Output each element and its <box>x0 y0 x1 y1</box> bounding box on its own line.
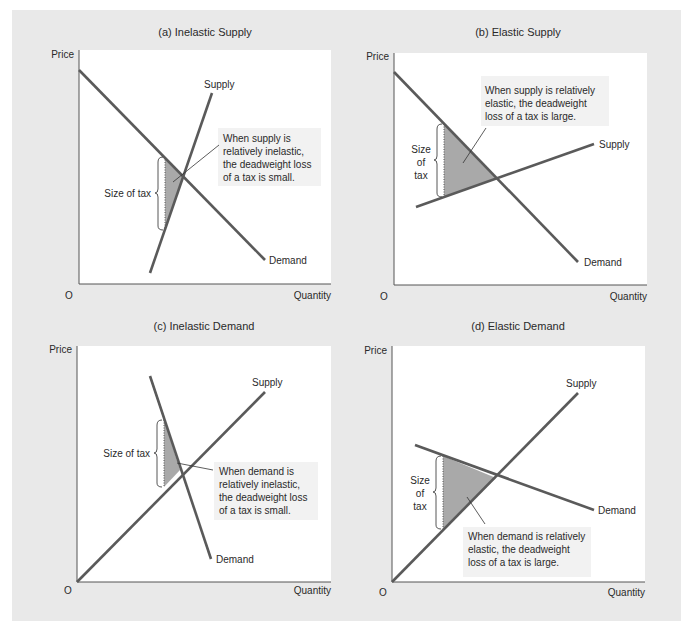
svg-text:relatively inelastic,: relatively inelastic, <box>219 479 300 490</box>
svg-text:of a tax is small.: of a tax is small. <box>223 172 295 183</box>
panel-d-demand-label: Demand <box>598 505 636 516</box>
panel-c-inelastic-demand: (c) Inelastic Demand Price O Quantity Su… <box>49 320 331 596</box>
panel-b-demand-label: Demand <box>584 257 622 268</box>
panel-a-demand-label: Demand <box>269 255 307 266</box>
panel-d-origin-label: O <box>379 587 387 598</box>
panel-b-y-label: Price <box>366 51 389 62</box>
panel-a-inelastic-supply: (a) Inelastic Supply Price O Quantity Su… <box>51 26 331 301</box>
svg-text:Size: Size <box>410 475 430 486</box>
svg-text:elastic, the deadweight: elastic, the deadweight <box>468 544 570 555</box>
panel-b-supply-label: Supply <box>599 139 630 150</box>
panel-c-brace-label: Size of tax <box>103 448 150 459</box>
panel-d-supply-label: Supply <box>566 378 597 389</box>
panel-a-title: (a) Inelastic Supply <box>158 26 252 38</box>
panel-a-x-label: Quantity <box>294 290 331 301</box>
panel-d-x-label: Quantity <box>608 587 645 598</box>
panel-a-y-label: Price <box>51 49 74 60</box>
svg-text:of: of <box>416 488 425 499</box>
panel-d-elastic-demand: (d) Elastic Demand Price O Quantity Supp… <box>364 320 645 598</box>
panel-b-title: (b) Elastic Supply <box>475 26 561 38</box>
svg-text:When demand is relatively: When demand is relatively <box>468 531 585 542</box>
panel-b-origin-label: O <box>380 291 388 302</box>
panel-c-origin-label: O <box>64 585 72 596</box>
panel-b-elastic-supply: (b) Elastic Supply Price O Quantity Supp… <box>366 26 647 302</box>
figure: (a) Inelastic Supply Price O Quantity Su… <box>0 0 692 633</box>
svg-text:When demand is: When demand is <box>219 466 294 477</box>
svg-text:loss of a tax is large.: loss of a tax is large. <box>468 557 559 568</box>
svg-text:elastic, the deadweight: elastic, the deadweight <box>485 98 587 109</box>
panel-d-title: (d) Elastic Demand <box>471 320 565 332</box>
svg-text:of: of <box>417 157 426 168</box>
panel-c-x-label: Quantity <box>294 585 331 596</box>
panel-a-brace-label: Size of tax <box>104 188 151 199</box>
panel-c-supply-label: Supply <box>252 377 283 388</box>
svg-text:tax: tax <box>413 501 426 512</box>
svg-text:Size: Size <box>411 144 431 155</box>
svg-text:When supply is: When supply is <box>223 133 291 144</box>
panel-c-title: (c) Inelastic Demand <box>154 320 255 332</box>
panel-c-y-label: Price <box>49 344 72 355</box>
svg-text:loss of a tax is large.: loss of a tax is large. <box>485 111 576 122</box>
svg-text:tax: tax <box>414 170 427 181</box>
svg-text:When supply is relatively: When supply is relatively <box>485 85 595 96</box>
svg-text:relatively inelastic,: relatively inelastic, <box>223 146 304 157</box>
svg-text:of a tax is small.: of a tax is small. <box>219 505 291 516</box>
panel-b-x-label: Quantity <box>610 291 647 302</box>
svg-text:the deadweight loss: the deadweight loss <box>219 492 307 503</box>
panel-a-supply-label: Supply <box>204 79 235 90</box>
panel-a-origin-label: O <box>65 290 73 301</box>
panel-d-y-label: Price <box>364 345 387 356</box>
panel-c-demand-label: Demand <box>216 554 254 565</box>
svg-text:the deadweight loss: the deadweight loss <box>223 159 311 170</box>
